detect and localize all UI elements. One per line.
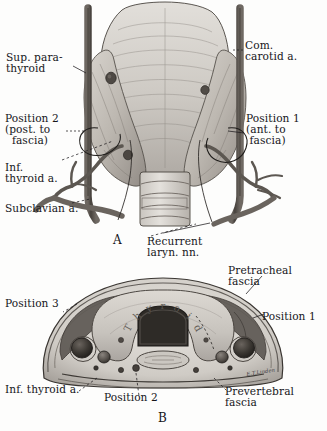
thyroid-caption-letter: h — [131, 310, 143, 323]
thyroid-caption-letter: i — [185, 311, 195, 321]
figure-canvas: Sup. para- thyroid Com. carotid a. Posit… — [0, 0, 327, 431]
thyroid-caption-letter: y — [144, 302, 153, 314]
thyroid-caption-letter: T — [121, 323, 134, 334]
thyroid-gland-caption: Thyroid — [0, 0, 327, 431]
thyroid-caption-letter: r — [161, 300, 166, 311]
thyroid-caption-letter: d — [192, 323, 205, 334]
thyroid-caption-letter: o — [172, 302, 182, 314]
